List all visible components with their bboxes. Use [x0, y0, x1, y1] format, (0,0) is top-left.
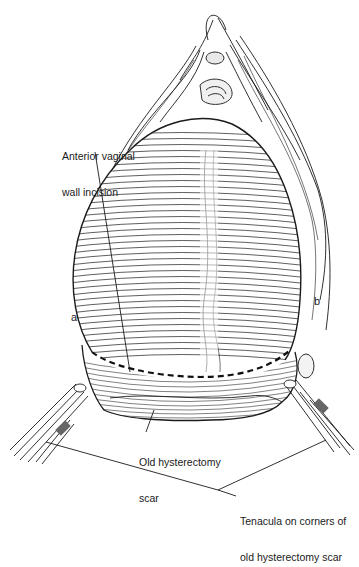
- incision-label-line2: wall incision: [62, 186, 135, 198]
- tenacula-label-line2: old hysterectomy scar: [240, 551, 346, 563]
- point-b-label: b: [314, 295, 320, 307]
- incision-label-line1: Anterior vaginal: [62, 150, 135, 162]
- point-a-label: a: [71, 311, 77, 323]
- tenacula-label-line1: Tenacula on corners of: [240, 515, 346, 527]
- incision-label: Anterior vaginal wall incision: [62, 126, 135, 210]
- tenacula-label: Tenacula on corners of old hysterectomy …: [240, 491, 346, 567]
- scar-label-line1: Old hysterectomy: [139, 456, 221, 468]
- tenaculum-left: [10, 384, 88, 464]
- scar-label: Old hysterectomy scar: [139, 432, 221, 516]
- scar-label-line2: scar: [139, 492, 221, 504]
